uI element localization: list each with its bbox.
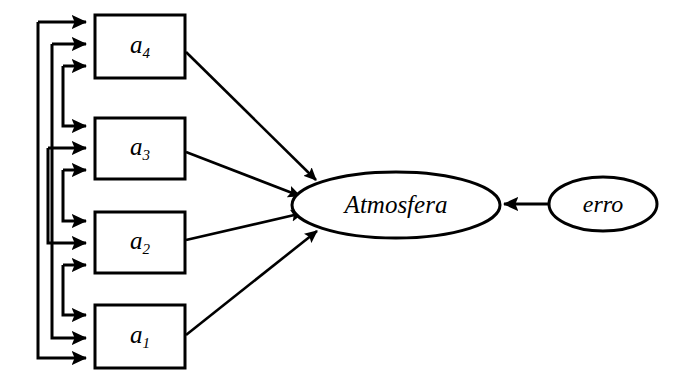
correlation-path-a3-a2-outer — [48, 148, 86, 243]
indicator-box-a4[interactable]: a4 — [95, 15, 185, 78]
latent-ellipse-erro[interactable]: erro — [549, 177, 657, 231]
correlation-path-a3-a2-inner — [63, 170, 86, 221]
indicator-box-a1[interactable]: a1 — [95, 305, 185, 368]
loading-arrow-a3-to-atmosfera — [186, 152, 300, 196]
diagram-svg: a4 a3 a2 a1 Atmosfera — [0, 0, 697, 391]
correlation-path-a4-a1-inner — [52, 44, 86, 338]
loading-arrow-a1-to-atmosfera — [186, 231, 317, 335]
correlation-path-a4-a3 — [63, 66, 86, 126]
latent-ellipse-erro-label: erro — [583, 191, 623, 217]
latent-ellipse-atmosfera[interactable]: Atmosfera — [292, 172, 500, 238]
indicator-box-a2[interactable]: a2 — [95, 212, 185, 273]
path-diagram-canvas: a4 a3 a2 a1 Atmosfera — [0, 0, 697, 391]
latent-ellipse-atmosfera-label: Atmosfera — [343, 191, 448, 218]
correlation-bracket-group — [38, 22, 86, 358]
loading-arrow-a2-to-atmosfera — [186, 213, 303, 240]
indicator-box-a3[interactable]: a3 — [95, 118, 185, 179]
correlation-path-a2-a1 — [63, 265, 86, 315]
